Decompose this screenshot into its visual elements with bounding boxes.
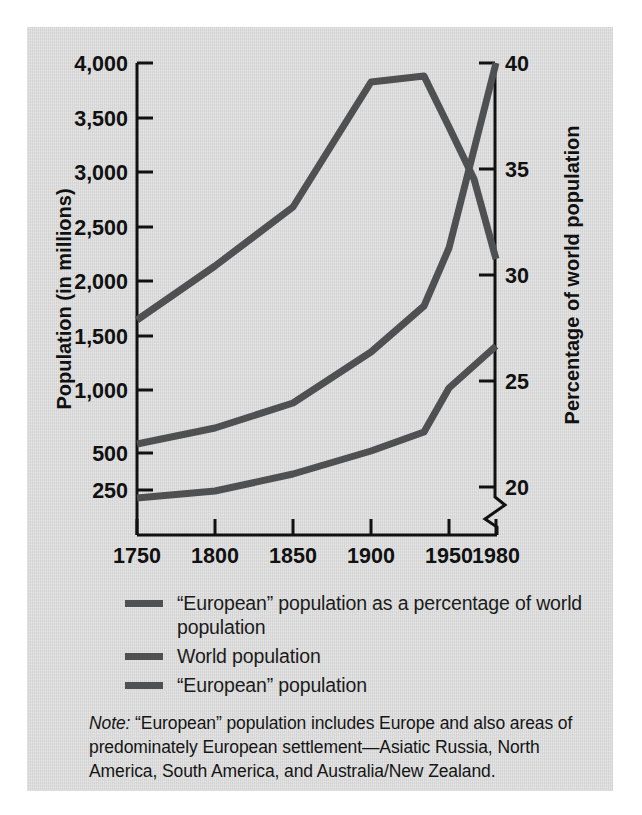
bottom-tick-label: 1950: [425, 544, 473, 568]
chart-figure-panel: 4,000 3,500 3,000 2,500 2,000 1,500 1,00…: [27, 27, 613, 791]
left-tick-label: 2,500: [74, 216, 128, 240]
bottom-tick-label: 1980: [472, 544, 520, 568]
right-tick-label: 30: [505, 264, 529, 288]
legend-swatch-icon: [125, 600, 163, 607]
left-tick-label: 3,500: [74, 107, 128, 131]
left-axis-ticks: [137, 63, 153, 490]
left-tick-label: 500: [92, 442, 128, 466]
bottom-tick-label: 1850: [269, 544, 317, 568]
right-tick-label: 35: [505, 158, 529, 182]
legend-item-label: “European” population: [177, 673, 367, 697]
legend-item-label: “European” population as a percentage of…: [177, 591, 595, 639]
note-text: “European” population includes Europe an…: [89, 713, 572, 781]
legend-item: World population: [125, 644, 595, 668]
bottom-axis-tick-labels: 1750 1800 1850 1900 1950 1980: [113, 544, 520, 568]
legend-item-label: World population: [177, 644, 321, 668]
legend-swatch-icon: [125, 682, 163, 689]
left-tick-label: 3,000: [74, 161, 128, 185]
right-tick-label: 25: [505, 370, 529, 394]
left-axis-title: Population (in millions): [53, 188, 75, 409]
left-axis-tick-labels: 4,000 3,500 3,000 2,500 2,000 1,500 1,00…: [74, 52, 128, 503]
right-tick-label: 20: [505, 476, 529, 500]
legend-item: “European” population as a percentage of…: [125, 591, 595, 639]
bottom-tick-label: 1750: [113, 544, 161, 568]
left-tick-label: 1,500: [74, 325, 128, 349]
bottom-axis-ticks: [137, 519, 496, 535]
legend-item: “European” population: [125, 673, 595, 697]
right-tick-label: 40: [505, 52, 529, 76]
right-axis-title: Percentage of world population: [561, 126, 583, 425]
chart-legend: “European” population as a percentage of…: [125, 591, 595, 702]
bottom-tick-label: 1900: [347, 544, 395, 568]
legend-swatch-icon: [125, 653, 163, 660]
left-tick-label: 1,000: [74, 379, 128, 403]
series-line-european-percentage: [137, 76, 496, 320]
chart-note: Note: “European” population includes Eur…: [89, 711, 589, 783]
right-axis-tick-labels: 40 35 30 25 20: [505, 52, 529, 500]
note-label: Note:: [89, 713, 130, 733]
left-tick-label: 2,000: [74, 270, 128, 294]
left-tick-label: 4,000: [74, 52, 128, 76]
bottom-tick-label: 1800: [191, 544, 239, 568]
left-tick-label: 250: [92, 479, 128, 503]
series-line-european-population: [137, 346, 496, 498]
